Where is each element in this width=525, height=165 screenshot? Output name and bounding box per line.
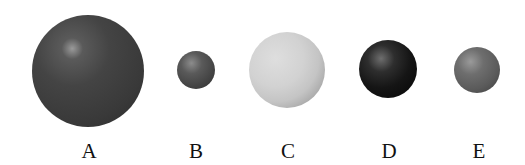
label-d: D [369,139,409,163]
sphere-a [32,15,144,127]
sphere-c [249,32,325,108]
label-a: A [69,139,109,163]
label-e: E [459,139,499,163]
sphere-d [359,40,417,98]
label-b: B [176,139,216,163]
sphere-e [454,47,500,93]
sphere-b [177,51,215,89]
label-c: C [268,139,308,163]
